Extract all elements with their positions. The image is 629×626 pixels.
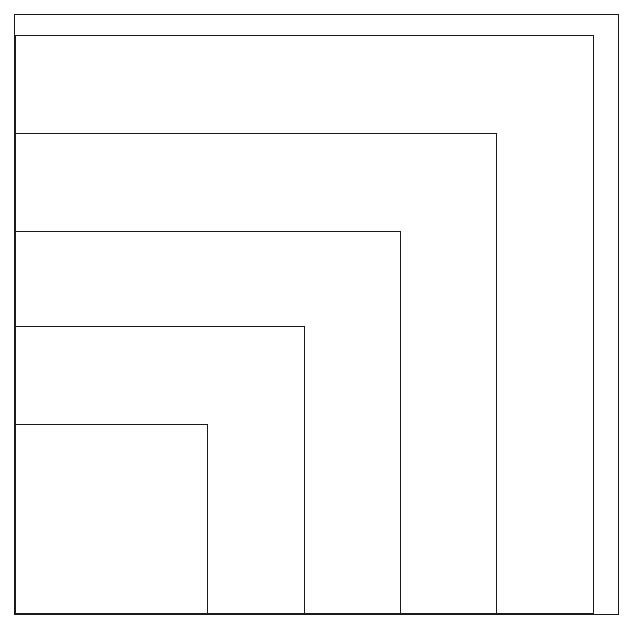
spiral-rect-5 bbox=[16, 425, 208, 614]
outer-frame bbox=[15, 15, 619, 615]
spiral-rect-2 bbox=[16, 134, 497, 614]
spiral-rect-4 bbox=[16, 327, 305, 614]
nested-rectangles-figure bbox=[0, 0, 629, 626]
drawing-canvas bbox=[0, 0, 629, 626]
